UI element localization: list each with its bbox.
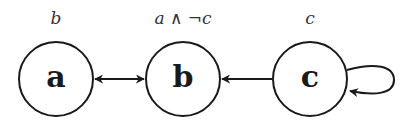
node-a-label: b	[51, 10, 62, 27]
node-c-name: c	[301, 62, 319, 92]
node-b-name: b	[173, 62, 194, 92]
node-a-name: a	[46, 62, 65, 92]
edge-c-self-loop	[347, 66, 394, 94]
state-diagram: b a ∧ ¬c c a b c	[0, 0, 416, 124]
node-b-label: a ∧ ¬c	[154, 10, 211, 27]
node-c-label: c	[305, 10, 315, 27]
